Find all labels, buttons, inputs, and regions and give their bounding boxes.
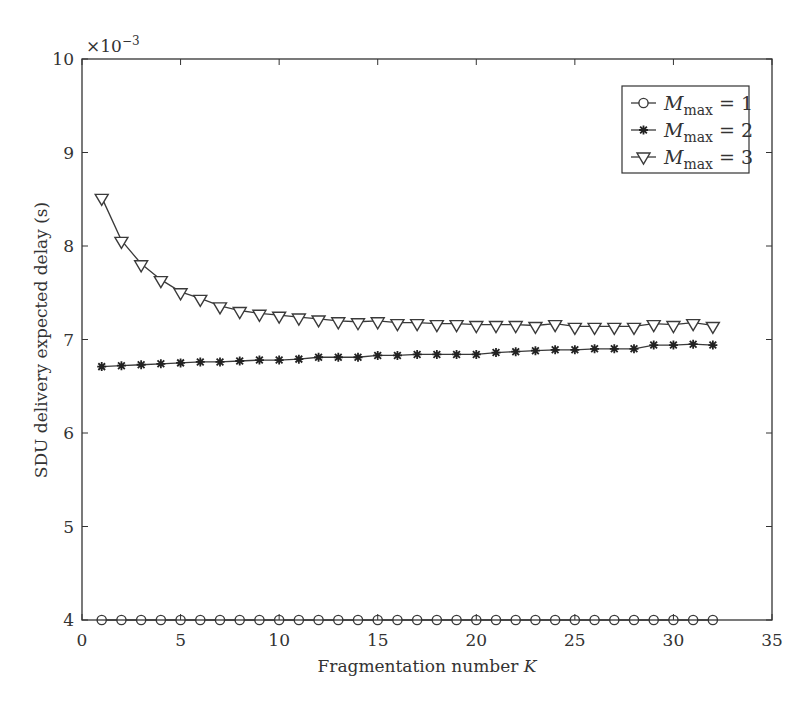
star-marker-icon (275, 356, 284, 365)
star-marker-icon (531, 346, 540, 355)
triangle-down-marker-icon (470, 322, 483, 333)
triangle-down-marker-icon (490, 322, 503, 333)
triangle-down-marker-icon (568, 323, 581, 334)
triangle-down-marker-icon (312, 316, 325, 327)
triangle-down-marker-icon (647, 321, 660, 332)
star-marker-icon (689, 340, 698, 349)
series-3 (95, 194, 719, 334)
y-tick-label: 4 (63, 610, 74, 630)
triangle-down-marker-icon (371, 318, 384, 329)
star-marker-icon (235, 357, 244, 366)
star-marker-icon (216, 357, 225, 366)
star-marker-icon (630, 344, 639, 353)
star-marker-icon (511, 347, 520, 356)
triangle-down-marker-icon (391, 320, 404, 331)
star-marker-icon (176, 358, 185, 367)
star-marker-icon (413, 350, 422, 359)
triangle-down-marker-icon (194, 295, 207, 306)
x-tick-label: 25 (564, 630, 586, 650)
triangle-down-marker-icon (332, 318, 345, 329)
triangle-down-marker-icon (292, 314, 305, 325)
star-marker-icon (373, 351, 382, 360)
y-axis-title: SDU delivery expected delay (s) (31, 202, 51, 478)
x-tick-label: 10 (268, 630, 290, 650)
triangle-down-marker-icon (588, 323, 601, 334)
triangle-down-marker-icon (135, 261, 148, 272)
x-tick-label: 35 (761, 630, 783, 650)
y-tick-label: 7 (63, 330, 74, 350)
star-marker-icon (314, 353, 323, 362)
series-line (102, 344, 713, 366)
x-tick-label: 0 (77, 630, 88, 650)
star-marker-icon (639, 126, 648, 135)
triangle-down-marker-icon (95, 194, 108, 205)
triangle-down-marker-icon (628, 323, 641, 334)
y-tick-label: 6 (63, 423, 74, 443)
y-tick-label: 8 (63, 236, 74, 256)
chart-canvas: 0510152025303545678910 ×10−3 Fragmentati… (0, 0, 812, 709)
x-axis-title: Fragmentation number K (317, 656, 537, 676)
triangle-down-marker-icon (687, 320, 700, 331)
star-marker-icon (452, 350, 461, 359)
series-2 (97, 340, 717, 371)
y-tick-label: 9 (63, 143, 74, 163)
triangle-down-marker-icon (608, 323, 621, 334)
triangle-down-marker-icon (509, 322, 522, 333)
star-marker-icon (708, 341, 717, 350)
star-marker-icon (137, 360, 146, 369)
star-marker-icon (610, 344, 619, 353)
star-marker-icon (551, 345, 560, 354)
star-marker-icon (117, 361, 126, 370)
star-marker-icon (669, 341, 678, 350)
star-marker-icon (156, 359, 165, 368)
star-marker-icon (570, 345, 579, 354)
star-marker-icon (393, 351, 402, 360)
triangle-down-marker-icon (450, 321, 463, 332)
circle-marker-icon (639, 98, 648, 107)
x-tick-label: 5 (175, 630, 186, 650)
x-tick-label: 20 (465, 630, 487, 650)
triangle-down-marker-icon (174, 289, 187, 300)
star-marker-icon (255, 356, 264, 365)
triangle-down-marker-icon (352, 319, 365, 330)
series-line (102, 197, 713, 326)
triangle-down-marker-icon (233, 308, 246, 319)
star-marker-icon (472, 350, 481, 359)
y-tick-label: 5 (63, 517, 74, 537)
star-marker-icon (590, 344, 599, 353)
x-tick-label: 15 (367, 630, 389, 650)
triangle-down-marker-icon (667, 322, 680, 333)
triangle-down-marker-icon (214, 303, 227, 314)
legend: Mmax = 1Mmax = 2Mmax = 3 (622, 86, 753, 173)
triangle-down-marker-icon (549, 321, 562, 332)
star-marker-icon (196, 357, 205, 366)
star-marker-icon (334, 353, 343, 362)
star-marker-icon (492, 348, 501, 357)
triangle-down-marker-icon (706, 322, 719, 333)
x-tick-label: 30 (663, 630, 685, 650)
plot-area (95, 194, 719, 624)
triangle-down-marker-icon (253, 310, 266, 321)
star-marker-icon (97, 362, 106, 371)
y-tick-label: 10 (52, 49, 74, 69)
triangle-down-marker-icon (529, 322, 542, 333)
triangle-down-marker-icon (411, 320, 424, 331)
star-marker-icon (432, 350, 441, 359)
triangle-down-marker-icon (273, 312, 286, 323)
triangle-down-marker-icon (430, 321, 443, 332)
star-marker-icon (294, 355, 303, 364)
star-marker-icon (354, 353, 363, 362)
y-multiplier: ×10−3 (86, 34, 140, 56)
star-marker-icon (649, 341, 658, 350)
